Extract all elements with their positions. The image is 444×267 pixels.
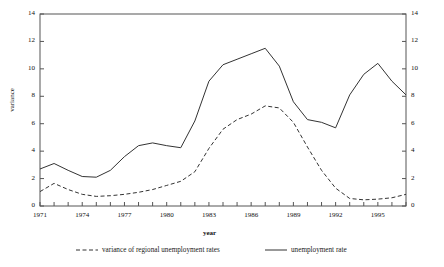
x-tick-1992: 1992 <box>321 211 351 219</box>
x-tick-1986: 1986 <box>236 211 266 219</box>
y-left-tick-4: 4 <box>19 146 35 154</box>
y-axis-right-ticks <box>402 14 406 206</box>
series-line-unemployment-rate <box>40 48 406 177</box>
x-tick-1977: 1977 <box>109 211 139 219</box>
x-tick-1983: 1983 <box>194 211 224 219</box>
y-axis-left-title: variance <box>8 70 16 130</box>
x-tick-1971: 1971 <box>25 211 55 219</box>
legend-label-unemployment: unemployment rate <box>291 246 347 254</box>
y-right-tick-12: 12 <box>411 36 427 44</box>
legend-solid-line-sample <box>265 246 287 254</box>
x-axis-ticks <box>40 202 406 206</box>
series-line-variance <box>40 106 406 200</box>
y-left-tick-8: 8 <box>19 91 35 99</box>
y-left-tick-6: 6 <box>19 119 35 127</box>
data-series-group <box>40 48 406 200</box>
y-right-tick-6: 6 <box>411 119 427 127</box>
y-left-tick-10: 10 <box>19 64 35 72</box>
y-right-tick-0: 0 <box>411 201 427 209</box>
legend-dashed-line-sample <box>76 246 98 254</box>
plot-area <box>0 0 444 267</box>
y-left-tick-0: 0 <box>19 201 35 209</box>
y-axis-left-ticks <box>40 14 44 206</box>
x-tick-1974: 1974 <box>67 211 97 219</box>
y-right-tick-2: 2 <box>411 174 427 182</box>
x-tick-1989: 1989 <box>278 211 308 219</box>
legend-item-variance: variance of regional unemployment rates <box>76 246 220 254</box>
chart-figure: variance unemployment rate (%) year 0246… <box>0 0 444 267</box>
x-axis-title: year <box>203 229 216 237</box>
y-left-tick-12: 12 <box>19 36 35 44</box>
y-right-tick-10: 10 <box>411 64 427 72</box>
y-right-tick-4: 4 <box>411 146 427 154</box>
y-left-tick-14: 14 <box>19 9 35 17</box>
y-right-tick-8: 8 <box>411 91 427 99</box>
legend-label-variance: variance of regional unemployment rates <box>102 246 220 254</box>
y-left-tick-2: 2 <box>19 174 35 182</box>
chart-legend: variance of regional unemployment rates … <box>0 246 444 262</box>
y-right-tick-14: 14 <box>411 9 427 17</box>
legend-item-unemployment: unemployment rate <box>265 246 347 254</box>
x-tick-1995: 1995 <box>363 211 393 219</box>
x-tick-1980: 1980 <box>152 211 182 219</box>
